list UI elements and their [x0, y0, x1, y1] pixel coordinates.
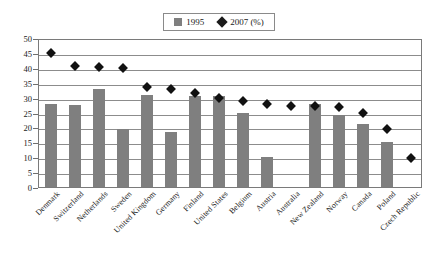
bar-norway [333, 115, 345, 187]
gridline [39, 85, 421, 86]
bar-canada [357, 124, 369, 187]
marker-sweden [118, 63, 128, 73]
marker-germany [166, 84, 176, 94]
y-tick-label: 15 [4, 139, 32, 148]
y-tick-label: 20 [4, 124, 32, 133]
bar-netherlands [93, 89, 105, 187]
y-tick-label: 10 [4, 154, 32, 163]
legend-label-2007: 2007 (%) [230, 18, 264, 27]
y-tick-label: 5 [4, 169, 32, 178]
chart-container: 1995 2007 (%) 05101520253035404550 Denma… [0, 0, 433, 262]
marker-czech-republic [406, 153, 416, 163]
bar-finland [189, 96, 201, 187]
bar-poland [381, 142, 393, 187]
x-axis: DenmarkSwitzerlandNetherlandsSwedenUnite… [38, 190, 422, 262]
marker-canada [358, 108, 368, 118]
y-tick-label: 40 [4, 65, 32, 74]
chart-legend: 1995 2007 (%) [163, 13, 275, 31]
bar-united-states [213, 96, 225, 187]
y-tick-label: 25 [4, 109, 32, 118]
marker-poland [382, 124, 392, 134]
legend-diamond-icon [216, 16, 227, 27]
x-tick-label: Belgium [228, 190, 254, 216]
y-tick-label: 35 [4, 79, 32, 88]
marker-denmark [46, 48, 56, 58]
gridline [39, 55, 421, 56]
y-tick-label: 30 [4, 94, 32, 103]
marker-australia [286, 101, 296, 111]
marker-austria [262, 99, 272, 109]
legend-label-1995: 1995 [186, 18, 204, 27]
bar-switzerland [69, 105, 81, 187]
bar-denmark [45, 104, 57, 187]
marker-belgium [238, 96, 248, 106]
y-tick-label: 45 [4, 50, 32, 59]
marker-united-kingdom [142, 82, 152, 92]
y-tick-label: 0 [4, 184, 32, 193]
y-tick-label: 50 [4, 35, 32, 44]
bar-sweden [117, 129, 129, 187]
x-tick-label: Norway [325, 190, 349, 214]
y-tick-mark [33, 188, 38, 189]
x-tick-label: Germany [154, 190, 181, 217]
marker-norway [334, 102, 344, 112]
bar-belgium [237, 113, 249, 188]
legend-entry-2007: 2007 (%) [218, 18, 264, 27]
x-tick-label: Canada [351, 190, 374, 213]
bar-germany [165, 132, 177, 187]
y-axis: 05101520253035404550 [0, 39, 34, 188]
bar-austria [261, 157, 273, 187]
bar-new-zealand [309, 104, 321, 187]
legend-entry-1995: 1995 [174, 18, 204, 27]
plot-area [38, 39, 422, 188]
bar-united-kingdom [141, 95, 153, 187]
legend-square-icon [174, 18, 182, 26]
